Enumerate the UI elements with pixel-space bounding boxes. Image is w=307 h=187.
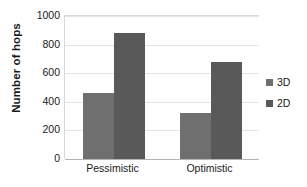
x-axis-line — [65, 159, 259, 160]
y-tick-label: 400 — [24, 96, 60, 107]
y-axis-title: Number of hops — [10, 8, 22, 128]
bar-2d-pessimistic[interactable] — [114, 33, 145, 159]
y-tick-label: 800 — [24, 38, 60, 49]
legend-label: 2D — [277, 98, 290, 109]
legend-item-2d[interactable]: 2D — [266, 95, 307, 111]
y-tick-label: 0 — [24, 153, 60, 164]
y-tick-label: 1000 — [24, 10, 60, 21]
x-axis-tick-labels: PessimisticOptimistic — [64, 162, 258, 184]
bars-layer — [65, 16, 259, 159]
plot-area — [64, 15, 259, 159]
bar-group — [180, 16, 242, 159]
bar-2d-optimistic[interactable] — [211, 62, 242, 159]
legend-item-3d[interactable]: 3D — [266, 74, 307, 90]
bar-3d-optimistic[interactable] — [180, 113, 211, 159]
bar-3d-pessimistic[interactable] — [83, 93, 114, 159]
legend-label: 3D — [277, 77, 290, 88]
legend-swatch-icon — [266, 79, 273, 86]
y-tick-label: 600 — [24, 67, 60, 78]
legend: 3D2D — [266, 74, 307, 116]
y-tick-label: 200 — [24, 124, 60, 135]
x-tick-label: Optimistic — [186, 162, 232, 174]
bar-group — [83, 16, 145, 159]
y-axis-tick-labels: 02004006008001000 — [24, 0, 60, 187]
legend-swatch-icon — [266, 100, 273, 107]
x-tick-label: Pessimistic — [86, 162, 139, 174]
bar-chart: Number of hops 02004006008001000 Pessimi… — [0, 0, 307, 187]
